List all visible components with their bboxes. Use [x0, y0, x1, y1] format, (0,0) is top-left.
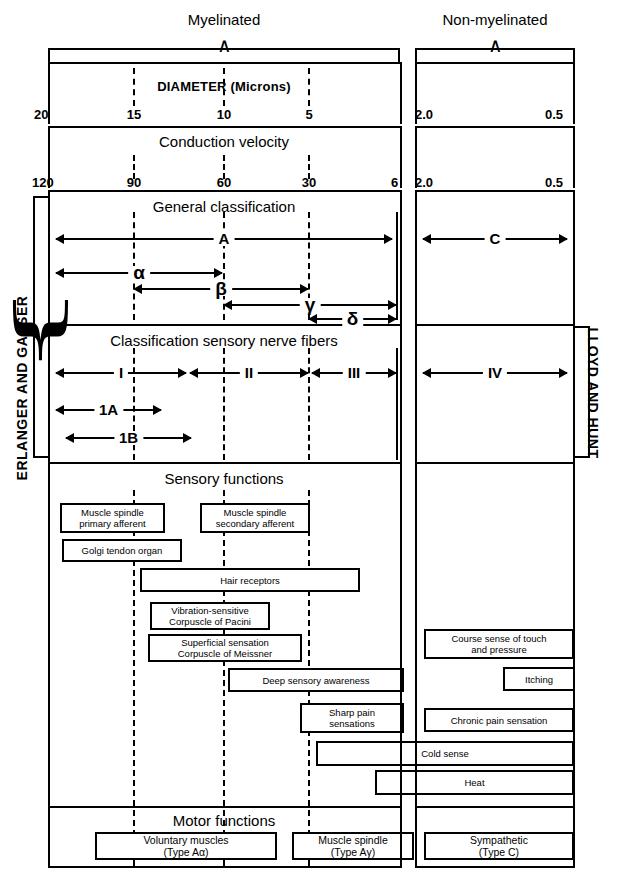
bracket-peak: ∧: [217, 38, 232, 52]
bracket-right-foot: [573, 48, 575, 62]
span-C: C: [423, 238, 567, 240]
box-label: Golgi tendon organ: [82, 545, 163, 556]
bracket-left-foot: [48, 48, 50, 62]
velocity-tick-6: 6: [391, 175, 398, 190]
velocity-tick-90: 90: [127, 175, 141, 190]
span-gamma-label: γ: [300, 298, 321, 312]
main-right-top-border: [415, 190, 575, 192]
box-superficial-sensation-corpuscle-of-meissner: Superficial sensation Corpuscle of Meiss…: [148, 634, 302, 662]
span-delta: δ: [309, 318, 396, 320]
diameter-right-panel-right-edge: [573, 62, 575, 124]
gridline-sensclass-30: [308, 348, 310, 460]
motor-functions-divider-left: [48, 806, 402, 808]
sensory-functions-divider-left: [48, 462, 402, 464]
velocity-row-top: [48, 126, 402, 128]
box-sharp-pain-sensations: Sharp pain sensations: [300, 703, 404, 733]
left-bracket-top-tick: [33, 196, 48, 198]
box-label: Itching: [525, 674, 553, 685]
gridline-diameter-15: [133, 68, 135, 106]
span-1B: 1B: [66, 437, 191, 439]
sensory-functions-title: Sensory functions: [164, 470, 283, 487]
diameter-tick-10: 10: [217, 107, 231, 122]
span-IV-label: IV: [483, 366, 507, 380]
box-chronic-pain-sensation: Chronic pain sensation: [424, 708, 574, 732]
main-right-bottom-border: [415, 866, 575, 868]
bracket-right-foot: [398, 48, 400, 62]
span-A-label: A: [214, 232, 235, 246]
box-label: Heat: [464, 777, 484, 788]
sensory-functions-divider-right: [415, 462, 575, 464]
span-1B-label: 1B: [114, 431, 143, 445]
box-muscle-spindle-motor: Muscle spindle (Type Aγ): [292, 832, 414, 860]
box-label: Course sense of touch and pressure: [451, 633, 546, 655]
velocity-row-top-right: [415, 126, 575, 128]
span-IV: IV: [423, 372, 567, 374]
bracket-left-foot: [415, 48, 417, 62]
motor-functions-divider-right: [415, 806, 575, 808]
general-sensory-divider-right: [415, 324, 575, 326]
gridline-diameter-10: [223, 68, 225, 106]
label-non-myelinated: Non-myelinated: [442, 11, 547, 28]
span-III: III: [312, 372, 396, 374]
box-label: Deep sensory awareness: [262, 675, 369, 686]
box-label: Voluntary muscles (Type Aα): [143, 834, 228, 858]
diameter-tick-15: 15: [127, 107, 141, 122]
span-1A: 1A: [56, 409, 161, 411]
box-muscle-spindle-primary-afferent: Muscle spindle primary afferent: [60, 503, 165, 533]
box-label: Muscle spindle primary afferent: [79, 507, 145, 529]
box-label: Cold sense: [421, 748, 469, 759]
bracket-peak: ∧: [488, 38, 503, 52]
panel-separator-outer: [415, 190, 417, 868]
span-1A-label: 1A: [94, 403, 123, 417]
gridline-diameter-5: [308, 68, 310, 106]
main-left-top-border: [48, 190, 402, 192]
main-right-right-edge: [573, 190, 575, 868]
velocity-tick-right-2-0: 2.0: [415, 175, 433, 190]
diameter-right-edge: [400, 62, 402, 124]
box-cold-sense: Cold sense: [316, 741, 574, 766]
span-beta: β: [134, 288, 308, 290]
gridline-sensfn-60: [223, 490, 225, 866]
box-course-sense-of-touch-and-pressure: Course sense of touch and pressure: [424, 629, 574, 659]
diameter-tick-2-0: 2.0: [415, 107, 433, 122]
box-hair-receptors: Hair receptors: [140, 568, 360, 592]
velocity-right-edge: [400, 126, 402, 188]
velocity-tick-right-0-5: 0.5: [545, 175, 563, 190]
velocity-tick-120: 120: [32, 175, 54, 190]
box-label: Muscle spindle secondary afferent: [216, 507, 295, 529]
sensory-classification-title: Classification sensory nerve fibers: [110, 332, 338, 349]
box-muscle-spindle-secondary-afferent: Muscle spindle secondary afferent: [200, 503, 310, 533]
label-myelinated: Myelinated: [188, 11, 261, 28]
diameter-tick-20: 20: [34, 107, 48, 122]
panel-separator-inner: [400, 190, 402, 868]
span-beta-label: β: [210, 282, 232, 296]
left-curly-brace: {: [7, 280, 67, 379]
right-bracket-top-tick: [573, 326, 590, 328]
span-alpha-label: α: [128, 266, 150, 280]
velocity-tick-60: 60: [217, 175, 231, 190]
span-A: A: [56, 238, 392, 240]
velocity-tick-30: 30: [302, 175, 316, 190]
sensclass-right-stop: [396, 348, 398, 460]
box-itching: Itching: [503, 667, 575, 691]
box-label: Vibration-sensitive Corpuscle of Pacini: [169, 605, 251, 627]
left-bracket-bottom-tick: [33, 456, 48, 458]
motor-functions-title: Motor functions: [173, 812, 276, 829]
box-label: Muscle spindle (Type Aγ): [318, 834, 387, 858]
velocity-right-panel-right-edge: [573, 126, 575, 188]
span-gamma: γ: [224, 304, 396, 306]
bracket-non-myelinated: ∧: [415, 38, 575, 64]
gridline-sensclass-60: [223, 348, 225, 460]
box-vibration-sensitive-corpuscle-of-pacini: Vibration-sensitive Corpuscle of Pacini: [150, 602, 270, 630]
box-heat: Heat: [375, 770, 574, 795]
span-C-label: C: [485, 232, 506, 246]
span-II: II: [190, 372, 308, 374]
right-bracket-spine: [588, 326, 590, 456]
span-I-label: I: [114, 366, 128, 380]
span-I: I: [56, 372, 186, 374]
main-left-bottom-border: [48, 866, 402, 868]
diameter-tick-5: 5: [305, 107, 312, 122]
box-label: Sharp pain sensations: [329, 707, 375, 729]
velocity-title: Conduction velocity: [159, 133, 289, 150]
span-III-label: III: [343, 366, 366, 380]
